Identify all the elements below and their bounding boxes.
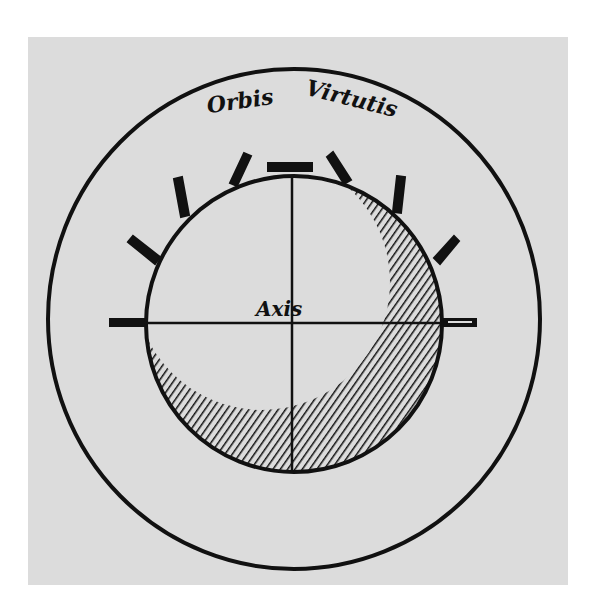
orbis-virtutis-diagram: Orbis Virtutis Axis xyxy=(0,0,600,614)
axis-label: Axis xyxy=(254,297,302,321)
title-virtutis: Virtutis xyxy=(303,74,400,122)
title-orbis: Orbis xyxy=(205,83,275,118)
